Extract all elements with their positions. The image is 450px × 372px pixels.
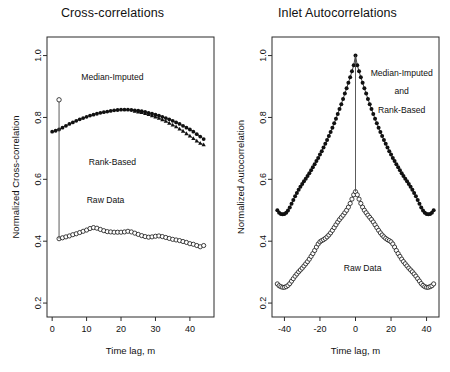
data-point [191,136,195,140]
data-point [74,119,78,123]
data-point [88,114,92,118]
data-point [332,121,336,125]
data-point [95,112,99,116]
data-point [384,142,388,146]
data-point [167,117,171,121]
data-point [112,108,116,112]
data-point [357,69,361,73]
series-annotation: Raw Data [344,263,382,273]
data-point [174,120,178,124]
data-point [191,130,195,134]
data-point [184,131,188,135]
data-point [348,201,352,205]
data-point [339,102,343,106]
data-point [322,145,326,149]
data-point [412,191,416,195]
data-point [417,202,421,206]
y-tick-label: 1.0 [33,49,43,62]
data-point [369,107,373,111]
series-annotation: Median-Imputed [371,68,433,78]
x-axis-title: Time lag, m [331,345,380,356]
data-point [323,142,327,146]
data-point [198,135,202,139]
data-point [341,97,345,101]
data-point [50,130,54,134]
data-point [202,243,206,247]
x-tick-label: 20 [116,324,126,334]
series-annotation: Raw Data [87,195,125,205]
data-point [57,98,61,102]
data-point [202,137,206,141]
data-point [327,134,331,138]
data-point [188,128,192,132]
data-point [377,126,381,130]
data-point [67,122,71,126]
data-point [171,119,175,123]
data-point [78,117,82,121]
data-point [318,153,322,157]
data-point [348,75,352,79]
series-annotation: Rank-Based [89,157,137,167]
figure-root: Cross-correlations 0102030400.20.40.60.8… [0,0,450,372]
x-tick-label: 0 [50,324,55,334]
data-point [54,129,58,133]
data-point [71,120,75,124]
y-axis-title: Normalized Autocorrelation [235,120,246,234]
data-point [432,282,436,286]
data-point [178,122,182,126]
data-point [185,126,189,130]
data-point [126,108,130,112]
data-point [378,130,382,134]
plot-cross-correlations: 0102030400.20.40.60.81.0Time lag, mNorma… [0,0,225,372]
x-tick-label: -20 [313,324,326,334]
data-point [85,115,89,119]
data-point [375,121,379,125]
data-point [382,138,386,142]
data-point [102,110,106,114]
data-point [195,139,199,143]
x-tick-label: 0 [353,324,358,334]
data-point [336,112,340,116]
data-point [330,126,334,130]
data-point [366,97,370,101]
data-point [293,194,297,198]
data-point [364,92,368,96]
x-tick-label: 20 [386,324,396,334]
data-point [329,130,333,134]
data-point [61,126,65,130]
data-point [338,107,342,111]
data-point [325,138,329,142]
data-point [343,92,347,96]
data-point [129,108,133,112]
data-point [181,124,185,128]
data-point [64,124,68,128]
data-point [119,108,123,112]
x-tick-label: 10 [82,324,92,334]
y-tick-label: 0.6 [258,173,268,186]
data-point [346,81,350,85]
data-point [368,102,372,106]
data-point [98,111,102,115]
x-tick-label: 40 [185,324,195,334]
data-point [389,153,393,157]
data-point [432,208,436,212]
y-tick-label: 0.2 [258,297,268,310]
data-point [385,145,389,149]
y-axis-title: Normalized Cross-correlation [10,115,21,238]
x-tick-label: 40 [422,324,432,334]
data-point [92,113,96,117]
data-point [81,116,85,120]
data-point [357,197,361,201]
x-tick-label: 30 [150,324,160,334]
data-point [361,81,365,85]
y-tick-label: 0.2 [33,297,43,310]
panel-inlet-autocorrelations: Inlet Autocorrelations -40-20020400.20.4… [225,0,450,372]
y-tick-label: 0.8 [258,111,268,124]
data-point [362,86,366,90]
data-point [371,112,375,116]
data-point [123,108,127,112]
data-point [320,149,324,153]
data-point [291,198,295,202]
data-point [345,86,349,90]
series-annotation: and [395,86,410,96]
